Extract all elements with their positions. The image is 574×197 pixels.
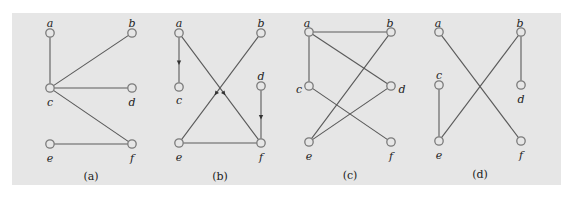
- vertex-label-e: e: [306, 150, 313, 163]
- vertex-label-a: a: [435, 17, 442, 30]
- graph-caption: (d): [472, 168, 488, 181]
- vertex-label-a: a: [176, 17, 183, 30]
- vertex-label-a: a: [47, 17, 54, 30]
- vertex-c: [435, 81, 443, 89]
- vertex-label-f: f: [518, 149, 525, 162]
- vertex-f: [387, 138, 395, 146]
- vertex-d: [257, 82, 265, 90]
- arrow-icon: [259, 115, 263, 120]
- vertex-label-d: d: [257, 70, 264, 83]
- edge-a-d: [313, 34, 388, 83]
- vertex-label-d: d: [398, 83, 405, 96]
- edge-b-e: [312, 35, 389, 138]
- vertex-e: [46, 140, 54, 148]
- vertex-label-c: c: [296, 83, 302, 96]
- graph-a: abcdef(a): [46, 17, 136, 183]
- graph-c: abcdef(c): [296, 17, 406, 182]
- vertex-f: [257, 139, 265, 147]
- vertex-label-e: e: [176, 151, 183, 164]
- vertex-label-b: b: [128, 17, 135, 30]
- graph-caption: (c): [343, 169, 358, 182]
- vertex-a: [46, 29, 54, 37]
- vertex-label-f: f: [388, 150, 395, 163]
- vertex-label-f: f: [129, 152, 136, 165]
- vertex-label-d: d: [517, 93, 524, 106]
- vertex-e: [175, 139, 183, 147]
- vertex-f: [128, 140, 136, 148]
- graphs-root: abcdef(a)abcdef(b)abcdef(c)abcdef(d): [46, 17, 525, 183]
- vertex-c: [305, 82, 313, 90]
- edge-c-f: [53, 90, 128, 141]
- vertex-label-b: b: [386, 17, 393, 30]
- vertex-label-b: b: [257, 17, 264, 30]
- graph-d: abcdef(d): [435, 17, 525, 181]
- vertex-b: [257, 29, 265, 37]
- vertex-label-d: d: [128, 96, 135, 109]
- vertex-label-c: c: [176, 94, 182, 107]
- graph-caption: (a): [83, 170, 98, 183]
- vertex-c: [175, 83, 183, 91]
- vertex-e: [305, 138, 313, 146]
- graph-caption: (b): [212, 170, 228, 183]
- vertex-label-b: b: [516, 17, 523, 30]
- vertex-b: [128, 29, 136, 37]
- vertex-d: [128, 84, 136, 92]
- vertex-label-e: e: [47, 152, 54, 165]
- edge-b-c: [53, 35, 128, 85]
- vertex-c: [46, 84, 54, 92]
- vertex-label-c: c: [47, 96, 53, 109]
- arrow-icon: [177, 60, 181, 64]
- vertex-label-c: c: [436, 69, 442, 82]
- graph-figure: abcdef(a)abcdef(b)abcdef(c)abcdef(d): [0, 0, 574, 197]
- vertex-d: [387, 82, 395, 90]
- vertex-a: [175, 29, 183, 37]
- vertex-e: [435, 137, 443, 145]
- vertex-d: [517, 81, 525, 89]
- vertex-label-e: e: [436, 149, 443, 162]
- vertex-f: [517, 137, 525, 145]
- vertex-label-a: a: [304, 17, 311, 30]
- graph-b: abcdef(b): [175, 17, 265, 183]
- vertex-label-f: f: [258, 151, 265, 164]
